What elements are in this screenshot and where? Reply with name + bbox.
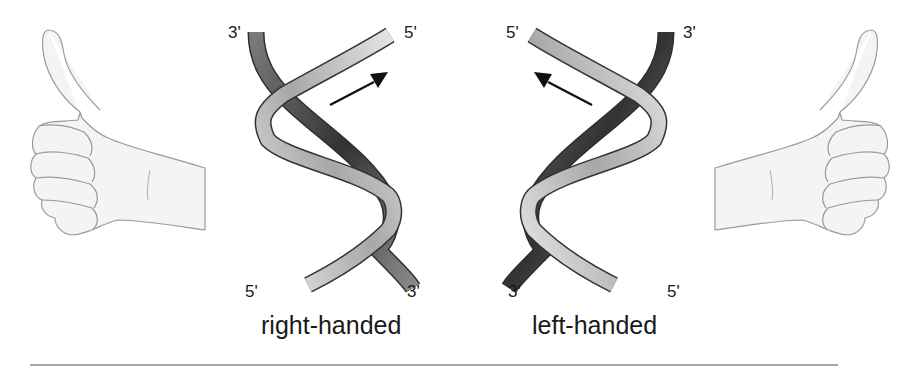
thumbs-up-right-hand-icon: [700, 20, 920, 260]
left-helix-label-bottom-left: 3': [508, 283, 521, 300]
left-handed-helix-diagram: [504, 30, 674, 290]
arrow-icon: [330, 72, 388, 105]
thumbs-up-left-hand-icon: [0, 20, 220, 260]
left-helix-label-top-left: 5': [506, 24, 519, 41]
right-helix-label-bottom-right: 3': [407, 283, 420, 300]
left-helix-label-bottom-right: 5': [667, 283, 680, 300]
left-helix-label-top-right: 3': [683, 24, 696, 41]
right-handed-helix-diagram: [248, 30, 418, 290]
arrow-icon: [534, 72, 592, 105]
right-helix-label-top-right: 5': [404, 24, 417, 41]
bottom-divider-rule: [30, 364, 838, 366]
right-helix-label-bottom-left: 5': [245, 283, 258, 300]
right-helix-label-top-left: 3': [228, 24, 241, 41]
right-handed-caption: right-handed: [261, 313, 401, 338]
left-handed-caption: left-handed: [532, 313, 657, 338]
